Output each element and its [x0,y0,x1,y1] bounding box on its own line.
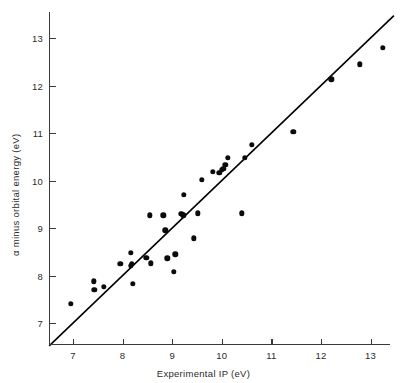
x-tick-label-10: 10 [216,350,227,361]
data-point [68,301,73,306]
x-tick-label-8: 8 [120,350,125,361]
data-point [147,212,152,217]
data-point [165,256,170,261]
y-tick-label-9: 9 [27,223,43,234]
identity-reference-line [0,0,407,383]
y-tick-label-13: 13 [27,33,43,44]
data-point [117,261,122,266]
y-tick-10 [50,181,56,182]
x-tick-13 [371,339,372,345]
x-tick-11 [271,339,272,345]
x-tick-label-9: 9 [169,350,174,361]
y-tick-label-11: 11 [27,128,43,139]
y-tick-9 [50,228,56,229]
data-point [163,228,168,233]
data-point [242,155,247,160]
y-tick-8 [50,276,56,277]
data-point [91,278,96,283]
data-point [128,250,133,255]
data-point [380,45,385,50]
data-point [329,77,334,82]
data-point [172,251,177,256]
data-point [291,129,296,134]
x-tick-12 [321,339,322,345]
data-point [128,263,133,268]
data-point [225,155,230,160]
data-point [239,211,244,216]
data-point [161,212,166,217]
data-point [210,169,215,174]
y-axis-label: α minus orbital energy (eV) [10,134,21,256]
y-axis-line [49,12,50,344]
data-point [191,236,196,241]
data-point [199,177,204,182]
data-point [101,284,106,289]
data-point [144,255,149,260]
data-point [92,287,97,292]
x-tick-9 [172,339,173,345]
data-point [148,260,153,265]
data-point [249,142,254,147]
y-tick-label-8: 8 [27,270,43,281]
data-point [171,269,176,274]
data-point [181,192,186,197]
x-tick-label-11: 11 [266,350,276,361]
y-tick-11 [50,133,56,134]
y-tick-label-7: 7 [27,318,43,329]
x-tick-label-7: 7 [70,350,75,361]
data-point [180,212,185,217]
data-point [357,61,362,66]
data-point [130,281,135,286]
scatter-plot-figure: 78910111213 78910111213 Experimental IP … [0,0,407,383]
x-tick-label-13: 13 [365,350,376,361]
y-tick-label-10: 10 [27,175,43,186]
y-tick-label-12: 12 [27,80,43,91]
x-axis-line [49,344,390,345]
y-tick-12 [50,86,56,87]
y-tick-13 [50,38,56,39]
x-tick-10 [222,339,223,345]
y-tick-7 [50,323,56,324]
x-tick-8 [123,339,124,345]
x-tick-7 [73,339,74,345]
x-axis-label: Experimental IP (eV) [0,368,407,379]
data-point [223,162,228,167]
x-tick-label-12: 12 [316,350,327,361]
data-point [221,166,226,171]
data-point [195,211,200,216]
